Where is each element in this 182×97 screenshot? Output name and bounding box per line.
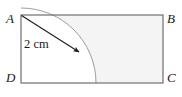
shaded-region-fill-right [94,15,164,83]
geometry-figure: A B C D 2 cm [0,0,182,97]
radius-measurement-label: 2 cm [24,38,49,51]
vertex-label-a: A [6,12,14,25]
vertex-label-c: C [167,71,176,84]
vertex-label-b: B [167,12,175,25]
vertex-label-d: D [6,71,15,84]
